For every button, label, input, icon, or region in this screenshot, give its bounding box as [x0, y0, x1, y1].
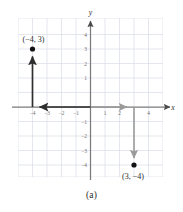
point-label-minus4-3: (−4, 3) [23, 35, 45, 44]
point-label-3-minus4: (3, −4) [122, 172, 144, 181]
y-tick-1: 1 [84, 75, 87, 81]
x-tick-4: 4 [147, 110, 150, 116]
y-tick--3: −3 [81, 148, 87, 154]
y-tick-3: 3 [84, 46, 87, 52]
figure-caption: (a) [0, 190, 183, 200]
x-tick--3: −3 [44, 110, 50, 116]
x-tick--4: −4 [30, 110, 36, 116]
x-axis-label: x [170, 103, 175, 112]
y-tick--4: −4 [81, 162, 87, 168]
point-minus4-3[interactable] [30, 46, 35, 51]
axes [12, 21, 170, 180]
point-3-minus4[interactable] [131, 162, 136, 167]
y-tick--2: −2 [81, 133, 87, 139]
y-tick--1: −1 [81, 119, 87, 125]
y-tick-4: 4 [84, 32, 87, 38]
figure-container: x y −4 −3 −2 −1 1 2 4 4 3 2 1 −1 −2 −3 −… [0, 0, 183, 212]
x-tick--1: −1 [73, 110, 79, 116]
y-tick-2: 2 [84, 61, 87, 67]
x-tick--2: −2 [59, 110, 65, 116]
x-tick-1: 1 [104, 110, 107, 116]
y-axis-label: y [88, 8, 93, 17]
x-tick-2: 2 [118, 110, 121, 116]
coordinate-plane-graph: x y −4 −3 −2 −1 1 2 4 4 3 2 1 −1 −2 −3 −… [0, 0, 183, 212]
y-tick-labels: 4 3 2 1 −1 −2 −3 −4 [81, 32, 87, 169]
